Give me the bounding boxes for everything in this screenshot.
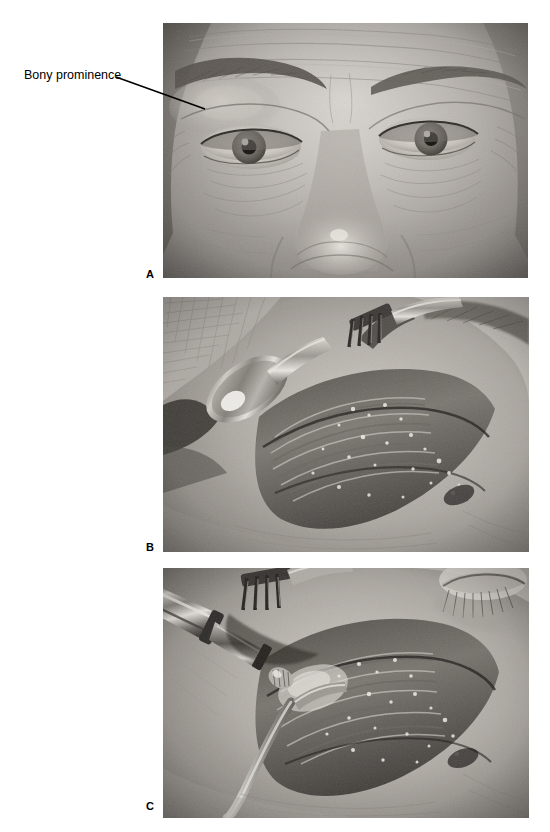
bony-prominence-label: Bony prominence [24,69,121,82]
panel-b-image [163,297,529,552]
panel-label-b: B [146,542,154,553]
panel-a-image [163,23,528,278]
panel-b-photograph [163,297,529,552]
panel-c-image [163,568,529,818]
figure-container: Bony prominence A B C [0,0,550,832]
panel-label-a: A [146,269,154,280]
panel-label-c: C [146,801,154,812]
panel-a-photograph [163,23,528,278]
panel-c-photograph [163,568,529,818]
